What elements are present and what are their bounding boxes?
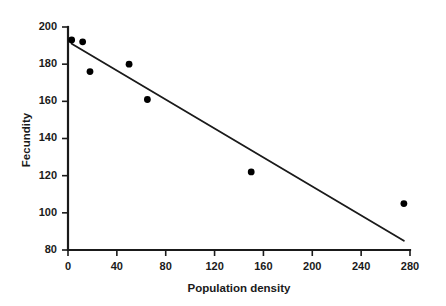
y-tick-label: 200 <box>39 20 57 32</box>
data-point <box>68 37 75 44</box>
x-tick-label: 160 <box>254 260 272 272</box>
y-tick-label: 80 <box>45 243 57 255</box>
y-tick-label: 160 <box>39 94 57 106</box>
x-tick-label: 0 <box>65 260 71 272</box>
y-tick-label: 180 <box>39 57 57 69</box>
y-tick-label: 120 <box>39 169 57 181</box>
chart-screenshot: 80100120140160180200 0408012016020024028… <box>0 0 446 306</box>
y-tick-label: 140 <box>39 131 57 143</box>
data-point <box>248 169 255 176</box>
x-tick-label: 120 <box>205 260 223 272</box>
x-tick-label: 280 <box>401 260 419 272</box>
x-tick-label: 200 <box>303 260 321 272</box>
data-point <box>87 68 94 75</box>
x-tick-label: 40 <box>111 260 123 272</box>
data-point <box>126 61 133 68</box>
y-axis-title: Fecundity <box>20 112 32 167</box>
data-point <box>79 38 86 45</box>
scatter-plot: 80100120140160180200 0408012016020024028… <box>0 0 446 306</box>
data-point <box>400 200 407 207</box>
data-point <box>144 96 151 103</box>
x-tick-label: 240 <box>352 260 370 272</box>
y-tick-label: 100 <box>39 206 57 218</box>
x-tick-label: 80 <box>160 260 172 272</box>
x-axis-title: Population density <box>188 282 291 294</box>
